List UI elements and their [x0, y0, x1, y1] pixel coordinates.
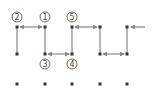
- grid-dot: [99, 53, 102, 56]
- step-label-3: 3: [40, 59, 50, 69]
- grid-dot: [44, 83, 47, 86]
- grid-dot: [16, 83, 19, 86]
- step-label-4: 4: [67, 59, 77, 69]
- grid-dot: [126, 26, 129, 29]
- path-segments: [17, 27, 145, 54]
- grid-dot: [71, 26, 74, 29]
- grid-dot: [44, 53, 47, 56]
- svg-text:2: 2: [14, 13, 19, 22]
- svg-text:3: 3: [42, 60, 47, 69]
- step-label-5: 5: [67, 12, 77, 22]
- grid-dot: [126, 83, 129, 86]
- svg-text:4: 4: [69, 60, 74, 69]
- grid-dot: [44, 26, 47, 29]
- grid-dot: [99, 83, 102, 86]
- grid-path-diagram: 21534: [0, 0, 155, 102]
- step-label-1: 1: [40, 12, 50, 22]
- grid-dot: [16, 53, 19, 56]
- step-label-2: 2: [12, 12, 22, 22]
- grid-dot: [126, 53, 129, 56]
- svg-text:5: 5: [69, 13, 74, 22]
- grid-dot: [99, 26, 102, 29]
- grid-dot: [16, 26, 19, 29]
- grid-dot: [71, 83, 74, 86]
- grid-dot: [71, 53, 74, 56]
- svg-text:1: 1: [42, 13, 47, 22]
